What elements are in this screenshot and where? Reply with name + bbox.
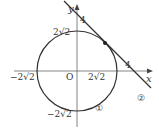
origin-label: O: [66, 72, 73, 82]
x-axis-label: x: [146, 73, 152, 84]
x-intercept-label: 4: [125, 60, 131, 70]
line-marker-2: ②: [137, 93, 145, 103]
circle-left-label: −2√2: [10, 72, 35, 82]
y-axis-arrow-icon: [75, 4, 80, 10]
circle-right-label: 2√2: [88, 72, 105, 82]
coordinate-diagram: y x O 4 4 2√2 −2√2 −2√2 2√2 ① ②: [0, 0, 159, 129]
circle-bottom-label: −2√2: [47, 109, 72, 119]
circle-top-label: 2√2: [53, 27, 70, 37]
y-intercept-label: 4: [80, 15, 86, 25]
y-axis-label: y: [67, 3, 74, 14]
circle-marker-1: ①: [95, 103, 103, 113]
tangent-point: [103, 41, 107, 45]
